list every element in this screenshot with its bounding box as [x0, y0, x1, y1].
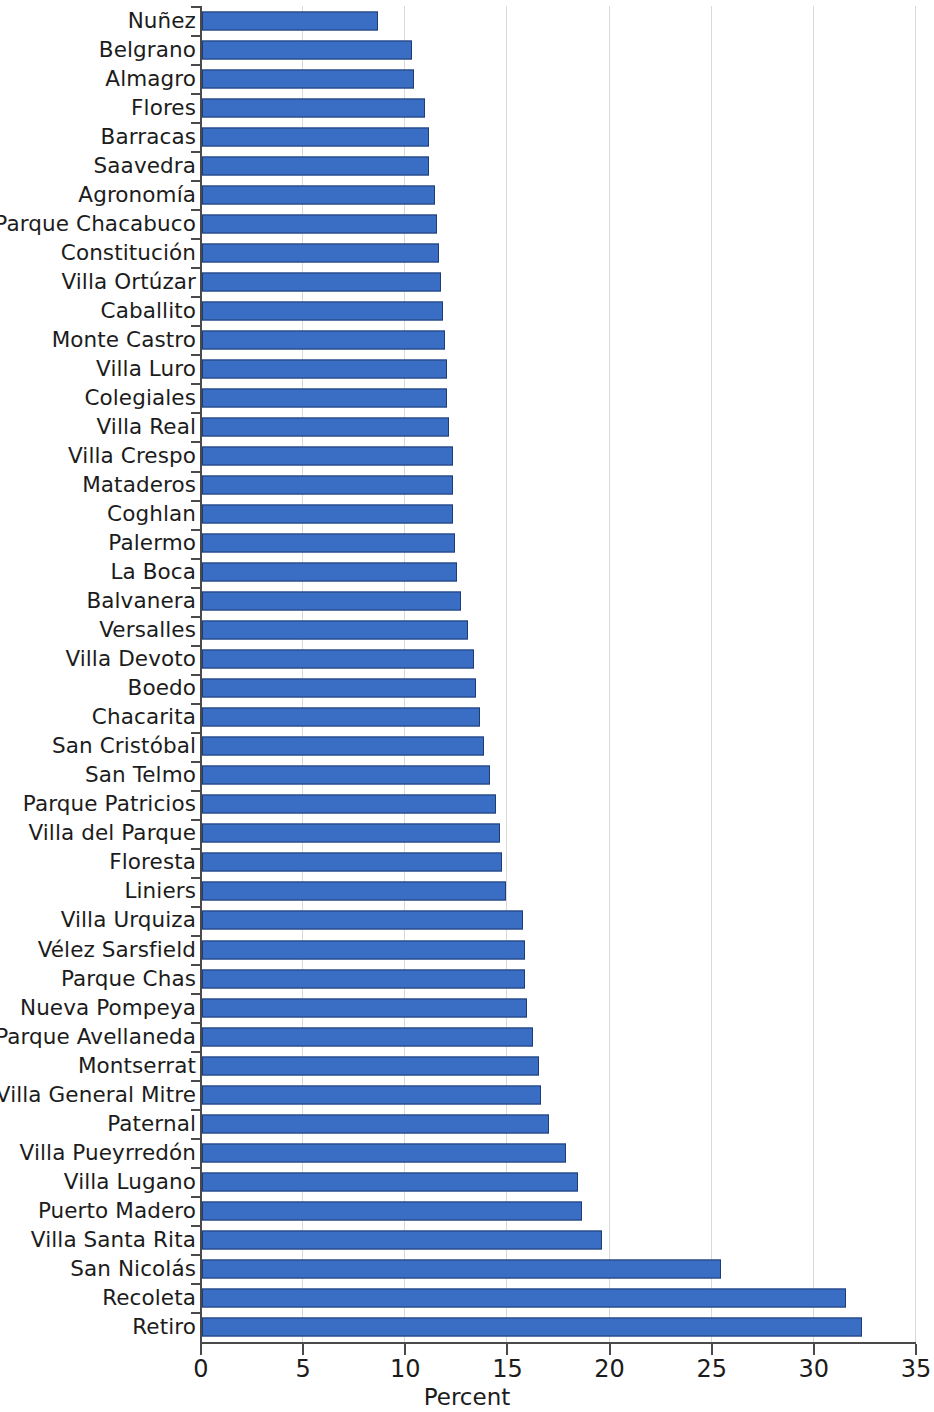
bar-row[interactable]: Villa Luro: [0, 354, 934, 383]
bar[interactable]: [202, 127, 429, 146]
bar[interactable]: [202, 214, 437, 233]
bar[interactable]: [202, 621, 468, 640]
bar[interactable]: [202, 534, 455, 553]
bar-row[interactable]: Vélez Sarsfield: [0, 935, 934, 964]
bar[interactable]: [202, 1027, 533, 1046]
bar-row[interactable]: Nueva Pompeya: [0, 993, 934, 1022]
category-label: Villa Lugano: [64, 1171, 196, 1193]
bar-row[interactable]: Barracas: [0, 122, 934, 151]
bar[interactable]: [202, 1172, 578, 1191]
x-axis-tick-label: 35: [901, 1357, 932, 1381]
bar[interactable]: [202, 476, 453, 495]
bar-row[interactable]: Belgrano: [0, 35, 934, 64]
bar[interactable]: [202, 301, 443, 320]
category-label: Liniers: [124, 881, 196, 903]
bar-container: [202, 156, 429, 175]
bar[interactable]: [202, 650, 474, 669]
bar[interactable]: [202, 882, 506, 901]
bar-row[interactable]: Villa Santa Rita: [0, 1225, 934, 1254]
bar[interactable]: [202, 708, 480, 727]
bar-row[interactable]: Boedo: [0, 674, 934, 703]
bar[interactable]: [202, 1085, 541, 1104]
bar-row[interactable]: Agronomía: [0, 180, 934, 209]
bar-row[interactable]: Parque Chas: [0, 964, 934, 993]
bar[interactable]: [202, 11, 378, 30]
bar-row[interactable]: Almagro: [0, 64, 934, 93]
bar-row[interactable]: Chacarita: [0, 703, 934, 732]
bar[interactable]: [202, 69, 414, 88]
bar-row[interactable]: Villa Ortúzar: [0, 267, 934, 296]
bar[interactable]: [202, 185, 435, 204]
bar[interactable]: [202, 330, 445, 349]
bar[interactable]: [202, 1317, 862, 1336]
bar-row[interactable]: Villa del Parque: [0, 819, 934, 848]
bar[interactable]: [202, 592, 461, 611]
bar[interactable]: [202, 272, 441, 291]
bar[interactable]: [202, 679, 476, 698]
bar[interactable]: [202, 766, 490, 785]
bar[interactable]: [202, 1143, 566, 1162]
bar-row[interactable]: Villa Devoto: [0, 645, 934, 674]
bar[interactable]: [202, 1114, 549, 1133]
bar-row[interactable]: Nuñez: [0, 6, 934, 35]
bar-row[interactable]: Montserrat: [0, 1051, 934, 1080]
bar-row[interactable]: Colegiales: [0, 383, 934, 412]
bar-row[interactable]: Caballito: [0, 296, 934, 325]
bar-row[interactable]: Constitución: [0, 238, 934, 267]
bar[interactable]: [202, 446, 453, 465]
bar[interactable]: [202, 998, 527, 1017]
bar[interactable]: [202, 911, 523, 930]
bar-row[interactable]: Parque Chacabuco: [0, 209, 934, 238]
bar-row[interactable]: Villa Lugano: [0, 1167, 934, 1196]
bar[interactable]: [202, 795, 496, 814]
bar-row[interactable]: Villa Crespo: [0, 441, 934, 470]
bar-row[interactable]: Paternal: [0, 1109, 934, 1138]
bar-row[interactable]: Balvanera: [0, 587, 934, 616]
bar-row[interactable]: Floresta: [0, 848, 934, 877]
bar[interactable]: [202, 940, 525, 959]
bar[interactable]: [202, 1056, 539, 1075]
bar[interactable]: [202, 969, 525, 988]
bar-row[interactable]: Villa General Mitre: [0, 1080, 934, 1109]
bar-row[interactable]: Villa Urquiza: [0, 906, 934, 935]
bar[interactable]: [202, 40, 412, 59]
bar-row[interactable]: Versalles: [0, 616, 934, 645]
bar-row[interactable]: San Nicolás: [0, 1254, 934, 1283]
bar[interactable]: [202, 359, 447, 378]
bar-row[interactable]: Retiro: [0, 1312, 934, 1341]
bar-row[interactable]: Mataderos: [0, 471, 934, 500]
category-label: Villa Pueyrredón: [20, 1142, 196, 1164]
x-axis-tick-label: 0: [193, 1357, 208, 1381]
bar[interactable]: [202, 1288, 846, 1307]
bar-row[interactable]: Parque Avellaneda: [0, 1022, 934, 1051]
bar[interactable]: [202, 388, 447, 407]
bar-row[interactable]: Recoleta: [0, 1283, 934, 1312]
bar[interactable]: [202, 563, 457, 582]
bar-row[interactable]: Palermo: [0, 529, 934, 558]
bar[interactable]: [202, 417, 449, 436]
bar-row[interactable]: Puerto Madero: [0, 1196, 934, 1225]
bar-row[interactable]: Saavedra: [0, 151, 934, 180]
bar[interactable]: [202, 243, 439, 262]
bar[interactable]: [202, 1230, 602, 1249]
bar[interactable]: [202, 156, 429, 175]
bar[interactable]: [202, 505, 453, 524]
bar[interactable]: [202, 98, 425, 117]
bar-row[interactable]: Flores: [0, 93, 934, 122]
bar[interactable]: [202, 1259, 721, 1278]
bar-row[interactable]: La Boca: [0, 558, 934, 587]
bar-container: [202, 795, 496, 814]
bar-row[interactable]: Villa Pueyrredón: [0, 1138, 934, 1167]
bar-row[interactable]: Monte Castro: [0, 325, 934, 354]
bar-row[interactable]: San Cristóbal: [0, 732, 934, 761]
category-label: Colegiales: [84, 387, 196, 409]
bar[interactable]: [202, 1201, 582, 1220]
bar-row[interactable]: Liniers: [0, 877, 934, 906]
bar[interactable]: [202, 824, 500, 843]
bar[interactable]: [202, 737, 484, 756]
bar-row[interactable]: Villa Real: [0, 412, 934, 441]
bar-row[interactable]: Coghlan: [0, 500, 934, 529]
bar-row[interactable]: Parque Patricios: [0, 790, 934, 819]
bar-row[interactable]: San Telmo: [0, 761, 934, 790]
bar[interactable]: [202, 853, 502, 872]
